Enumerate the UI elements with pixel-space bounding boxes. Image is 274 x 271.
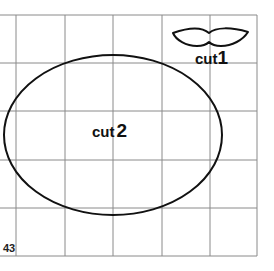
cut1-label-word: cut — [195, 50, 218, 67]
cutting-template-grid — [0, 0, 274, 271]
cut2-label-number: 2 — [117, 120, 128, 141]
cut1-label-number: 1 — [218, 47, 229, 68]
cut1-label: cut1 — [195, 47, 228, 69]
cut2-label-word: cut — [92, 123, 115, 140]
page-number: 43 — [3, 242, 15, 254]
cut2-label: cut2 — [92, 120, 127, 142]
